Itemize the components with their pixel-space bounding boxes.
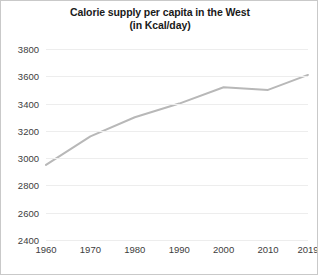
plot-area (46, 49, 308, 240)
chart-container: Calorie supply per capita in the West (i… (0, 0, 318, 275)
chart-title: Calorie supply per capita in the West (i… (1, 6, 318, 32)
x-axis: 1960197019801990200020102019 (46, 244, 308, 264)
gridline (46, 213, 308, 214)
gridline (46, 76, 308, 77)
x-tick-label: 1980 (124, 244, 145, 255)
gridline (46, 104, 308, 105)
gridline (46, 240, 308, 241)
gridline (46, 49, 308, 50)
x-tick-label: 1990 (169, 244, 190, 255)
y-tick-label: 3400 (18, 98, 39, 109)
y-tick-label: 3600 (18, 71, 39, 82)
chart-title-line1: Calorie supply per capita in the West (70, 6, 250, 18)
y-tick-label: 3800 (18, 44, 39, 55)
line-series (46, 49, 308, 240)
chart-subtitle: (in Kcal/day) (1, 19, 318, 32)
y-tick-label: 3000 (18, 153, 39, 164)
x-tick-label: 1960 (35, 244, 56, 255)
y-tick-label: 2800 (18, 180, 39, 191)
y-tick-label: 2600 (18, 207, 39, 218)
gridline (46, 158, 308, 159)
series-line (46, 75, 308, 165)
x-tick-label: 2019 (297, 244, 318, 255)
x-tick-label: 1970 (80, 244, 101, 255)
y-axis: 24002600280030003200340036003800 (1, 1, 46, 275)
x-tick-label: 2010 (257, 244, 278, 255)
gridline (46, 131, 308, 132)
gridline (46, 185, 308, 186)
x-tick-label: 2000 (213, 244, 234, 255)
y-tick-label: 3200 (18, 125, 39, 136)
